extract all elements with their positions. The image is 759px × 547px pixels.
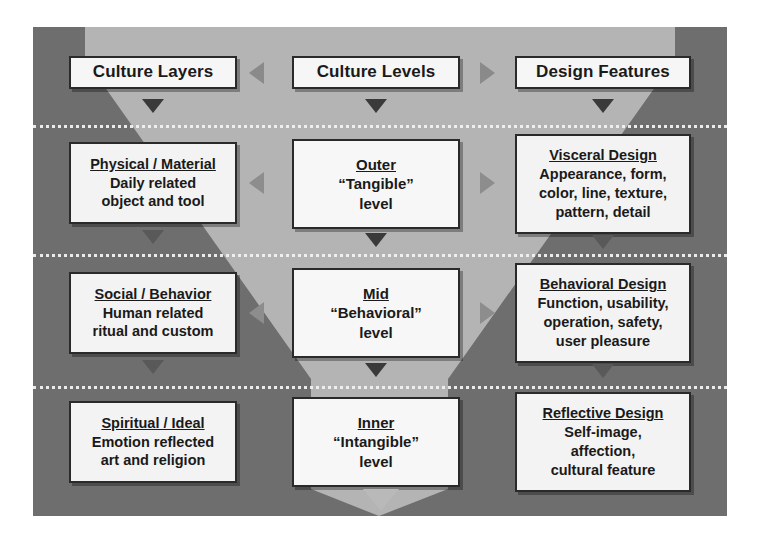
triangle-down-icon-left-1: [142, 230, 164, 244]
row-2-right-line-2: cultural feature: [551, 461, 656, 480]
row-2-center-line-1: level: [359, 452, 392, 472]
row-2-left-box[interactable]: Spiritual / Ideal Emotion reflected art …: [69, 401, 237, 483]
triangle-down-icon-right-1: [592, 235, 614, 249]
row-0-center-line-1: level: [359, 194, 392, 214]
row-1-center-title: Mid: [363, 284, 389, 304]
row-2-right-box[interactable]: Reflective Design Self-image, affection,…: [515, 392, 691, 492]
row-0-right-line-2: pattern, detail: [555, 203, 650, 222]
triangle-down-icon-right-2: [592, 364, 614, 378]
row-2-left-line-0: Emotion reflected: [92, 433, 214, 452]
header-culture-levels-label: Culture Levels: [317, 61, 436, 83]
triangle-left-icon-row-0: [249, 172, 264, 194]
triangle-right-icon-row-0: [480, 172, 495, 194]
row-0-right-box[interactable]: Visceral Design Appearance, form, color,…: [515, 134, 691, 234]
row-0-center-line-0: “Tangible”: [338, 174, 414, 194]
row-1-right-line-1: operation, safety,: [544, 313, 663, 332]
row-2-center-title: Inner: [358, 413, 395, 433]
triangle-right-icon-row-1: [480, 302, 495, 324]
header-design-features-label: Design Features: [536, 61, 670, 83]
triangle-left-icon-header: [249, 62, 264, 84]
diagram-background: Culture Layers Culture Levels Design Fea…: [33, 27, 727, 516]
header-culture-levels[interactable]: Culture Levels: [292, 56, 460, 89]
row-1-left-line-0: Human related: [103, 304, 204, 323]
row-2-left-line-1: art and religion: [101, 451, 206, 470]
triangle-down-icon-right-0: [592, 99, 614, 113]
divider-row-1: [33, 125, 727, 128]
row-0-left-line-1: object and tool: [101, 192, 204, 211]
divider-row-3: [33, 386, 727, 389]
triangle-right-icon-header: [480, 62, 495, 84]
triangle-down-icon-center-1: [365, 233, 387, 247]
header-design-features[interactable]: Design Features: [515, 56, 691, 89]
row-1-right-box[interactable]: Behavioral Design Function, usability, o…: [515, 263, 691, 363]
row-1-right-line-0: Function, usability,: [537, 294, 668, 313]
row-1-right-title: Behavioral Design: [540, 275, 667, 294]
triangle-down-icon-center-2: [365, 363, 387, 377]
row-1-center-box[interactable]: Mid “Behavioral” level: [292, 268, 460, 358]
row-2-right-title: Reflective Design: [543, 404, 664, 423]
triangle-left-icon-row-1: [249, 302, 264, 324]
row-2-right-line-0: Self-image,: [564, 423, 641, 442]
row-0-right-line-0: Appearance, form,: [539, 165, 666, 184]
divider-row-2: [33, 254, 727, 257]
row-2-center-line-0: “Intangible”: [333, 432, 419, 452]
row-0-right-title: Visceral Design: [549, 146, 657, 165]
diagram-canvas: Culture Layers Culture Levels Design Fea…: [0, 0, 759, 547]
row-1-center-line-0: “Behavioral”: [330, 303, 422, 323]
triangle-down-icon-left-0: [142, 99, 164, 113]
row-2-center-box[interactable]: Inner “Intangible” level: [292, 397, 460, 487]
triangle-down-icon-funnel-tip: [363, 489, 399, 511]
row-2-left-title: Spiritual / Ideal: [101, 414, 204, 433]
triangle-down-icon-center-0: [365, 99, 387, 113]
header-culture-layers-label: Culture Layers: [93, 61, 213, 83]
row-1-left-box[interactable]: Social / Behavior Human related ritual a…: [69, 272, 237, 354]
row-2-right-line-1: affection,: [571, 442, 635, 461]
header-culture-layers[interactable]: Culture Layers: [69, 56, 237, 89]
row-0-center-title: Outer: [356, 155, 396, 175]
row-1-right-line-2: user pleasure: [556, 332, 650, 351]
row-0-center-box[interactable]: Outer “Tangible” level: [292, 139, 460, 229]
row-1-center-line-1: level: [359, 323, 392, 343]
row-1-left-line-1: ritual and custom: [93, 322, 214, 341]
row-0-left-line-0: Daily related: [110, 174, 196, 193]
row-0-left-box[interactable]: Physical / Material Daily related object…: [69, 142, 237, 224]
row-1-left-title: Social / Behavior: [95, 285, 212, 304]
triangle-down-icon-left-2: [142, 360, 164, 374]
row-0-left-title: Physical / Material: [90, 155, 216, 174]
row-0-right-line-1: color, line, texture,: [539, 184, 667, 203]
